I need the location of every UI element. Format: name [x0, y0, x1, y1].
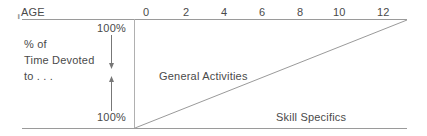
age-axis-label: AGE: [21, 6, 45, 18]
age-tick-0: 0: [143, 6, 149, 18]
age-tick-12: 12: [377, 6, 390, 18]
y-label-line-1: % of: [24, 38, 47, 50]
age-tick-6: 6: [259, 6, 265, 18]
y-label-line-2: Time Devoted: [24, 54, 94, 66]
y-label-line-3: to . . .: [24, 70, 53, 82]
diagram-lines: [0, 0, 427, 136]
top-percent-label: 100%: [97, 22, 126, 34]
bottom-percent-label: 100%: [97, 111, 126, 123]
age-tick-8: 8: [297, 6, 303, 18]
up-arrow-icon: [109, 76, 114, 82]
general-activities-label: General Activities: [159, 70, 248, 82]
age-tick-4: 4: [221, 6, 227, 18]
down-arrow-icon: [109, 63, 114, 69]
skill-specifics-label: Skill Specifics: [276, 111, 346, 123]
age-tick-2: 2: [183, 6, 189, 18]
age-tick-10: 10: [333, 6, 346, 18]
